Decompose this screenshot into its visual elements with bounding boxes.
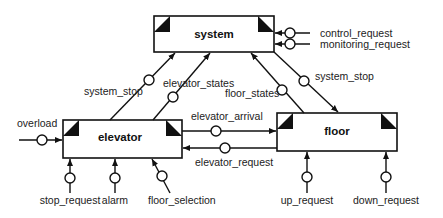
flow-down-request: down_request — [353, 152, 419, 206]
port-circle-icon — [110, 173, 120, 183]
flow-label: floor_selection — [148, 194, 216, 206]
port-circle-icon — [157, 171, 167, 181]
flow-label: elevator_arrival — [191, 110, 263, 122]
port-circle-icon — [285, 39, 295, 49]
flow-stop-request: stop_request — [40, 159, 101, 206]
port-circle-icon — [299, 76, 309, 86]
flow-label: alarm — [102, 194, 129, 206]
flow-label: up_request — [281, 194, 334, 206]
port-circle-icon — [168, 92, 178, 102]
port-circle-icon — [285, 28, 295, 38]
flow-alarm: alarm — [102, 159, 129, 206]
module-system: system — [154, 16, 274, 52]
port-circle-icon — [65, 173, 75, 183]
system-title: system — [194, 28, 234, 40]
port-circle-icon — [302, 172, 312, 182]
flow-label: elevator_request — [195, 156, 273, 168]
elevator-title: elevator — [98, 131, 143, 143]
module-elevator: elevator — [63, 120, 182, 158]
floor-title: floor — [324, 125, 350, 137]
flow-up-request: up_request — [281, 152, 334, 206]
port-circle-icon — [211, 126, 221, 136]
flow-elevator-request: elevator_request — [183, 143, 277, 168]
diagram-canvas: system elevator floor control_request mo… — [0, 0, 443, 218]
flow-label: elevator_states — [163, 77, 234, 89]
flow-label: system_stop — [84, 85, 143, 97]
flow-system-stop-right: system_stop — [274, 52, 374, 112]
flow-label: overload — [17, 117, 57, 129]
flow-label: monitoring_request — [320, 38, 410, 50]
flow-floor-states: floor_states — [225, 53, 304, 113]
port-circle-icon — [381, 172, 391, 182]
port-circle-icon — [37, 135, 47, 145]
flow-elevator-arrival: elevator_arrival — [182, 110, 276, 136]
flow-label: stop_request — [40, 194, 101, 206]
flow-label: down_request — [353, 194, 419, 206]
flow-label: system_stop — [315, 70, 374, 82]
port-circle-icon — [220, 143, 230, 153]
flow-label: floor_states — [225, 87, 279, 99]
flow-monitoring-request: monitoring_request — [275, 38, 410, 50]
flow-overload: overload — [17, 117, 62, 145]
module-floor: floor — [277, 113, 397, 151]
port-circle-icon — [144, 75, 154, 85]
